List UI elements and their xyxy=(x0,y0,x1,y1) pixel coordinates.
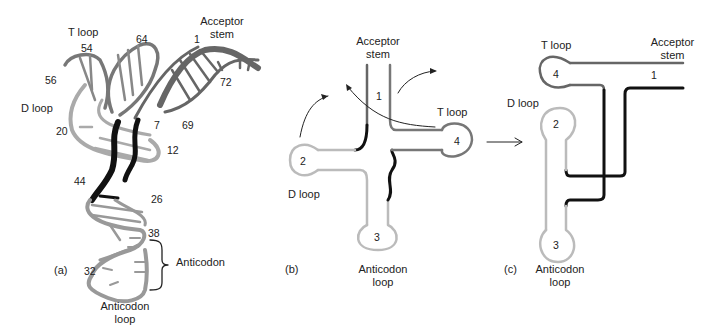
a-anticodon-loop-label-1: Anticodon xyxy=(100,300,150,312)
a-anticodon-label: Anticodon xyxy=(176,256,225,268)
a-num-38: 38 xyxy=(148,227,160,239)
a-panel-tag: (a) xyxy=(54,264,67,276)
c-anticodon-loop-label-1: Anticodon xyxy=(530,263,590,275)
a-num-26: 26 xyxy=(151,193,163,205)
a-anticodon-loop-label-2: loop xyxy=(100,313,150,325)
c-d-loop-label: D loop xyxy=(507,97,539,109)
b-anticodon-loop-label-2: loop xyxy=(353,276,413,288)
panel-c-l-shape xyxy=(540,57,683,262)
c-anticodon-loop-label-2: loop xyxy=(530,276,590,288)
a-num-72: 72 xyxy=(220,76,232,88)
b-panel-tag: (b) xyxy=(285,263,298,275)
a-t-loop-label: T loop xyxy=(68,26,98,38)
c-t-loop-label: T loop xyxy=(541,39,571,51)
a-num-64: 64 xyxy=(136,33,148,45)
c-num-1: 1 xyxy=(651,69,657,81)
a-num-12: 12 xyxy=(167,144,179,156)
a-acceptor-stem-label-2: stem xyxy=(197,28,247,40)
a-d-loop-label: D loop xyxy=(21,102,53,114)
c-panel-tag: (c) xyxy=(504,263,517,275)
a-num-44: 44 xyxy=(74,175,86,187)
b-num-4: 4 xyxy=(454,135,460,147)
c-num-2: 2 xyxy=(553,118,559,130)
b-num-2: 2 xyxy=(300,155,306,167)
b-acceptor-stem-label-2: stem xyxy=(353,48,403,60)
b-num-1: 1 xyxy=(376,90,382,102)
a-num-7: 7 xyxy=(154,119,160,131)
a-acceptor-stem-label-1: Acceptor xyxy=(197,15,247,27)
c-acceptor-stem-label-1: Acceptor xyxy=(645,36,700,48)
c-acceptor-stem-label-2: stem xyxy=(645,49,700,61)
b-anticodon-loop-label-1: Anticodon xyxy=(353,263,413,275)
a-num-32: 32 xyxy=(84,265,96,277)
b-acceptor-stem-label-1: Acceptor xyxy=(353,35,403,47)
panel-b-cloverleaf xyxy=(290,65,522,250)
b-d-loop-label: D loop xyxy=(288,188,320,200)
b-t-loop-label: T loop xyxy=(437,106,467,118)
a-num-56: 56 xyxy=(45,74,57,86)
b-num-3: 3 xyxy=(374,231,380,243)
a-num-1: 1 xyxy=(194,33,200,45)
c-num-4: 4 xyxy=(553,68,559,80)
c-num-3: 3 xyxy=(553,239,559,251)
a-num-54: 54 xyxy=(81,42,93,54)
a-num-20: 20 xyxy=(56,125,68,137)
a-num-69: 69 xyxy=(182,119,194,131)
